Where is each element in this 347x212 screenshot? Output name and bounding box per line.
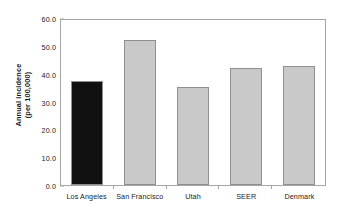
x-axis-tick-mark xyxy=(113,185,114,189)
bar-slot xyxy=(61,20,114,185)
x-axis-tick-label: Los Angeles xyxy=(60,192,113,201)
y-axis-tick-label: 30.0 xyxy=(42,98,56,107)
bar-slot xyxy=(167,20,220,185)
y-axis-title-line-1: Annual incidence xyxy=(14,64,23,127)
bar-slot xyxy=(219,20,272,185)
bar-chart-figure: Annual incidence (per 100,000) 60.050.04… xyxy=(0,0,347,212)
bar xyxy=(230,68,262,185)
bar xyxy=(124,40,156,185)
y-axis-tick-label: 60.0 xyxy=(42,15,56,24)
y-axis-tick-label: 40.0 xyxy=(42,70,56,79)
bar-slot xyxy=(272,20,325,185)
bar xyxy=(177,87,209,185)
y-axis-tick-labels: 60.050.040.030.020.010.00.0 xyxy=(30,19,60,186)
x-axis-tick-labels: Los AngelesSan FranciscoUtahSEERDenmark xyxy=(60,192,326,201)
plot-area xyxy=(60,19,326,186)
y-axis-tick-label: 20.0 xyxy=(42,126,56,135)
x-axis-tick-label: San Francisco xyxy=(113,192,166,201)
bar-series xyxy=(61,20,325,185)
bar xyxy=(283,66,315,185)
bar-slot xyxy=(114,20,167,185)
x-axis-tick-label: Denmark xyxy=(273,192,326,201)
x-axis-tick-mark xyxy=(166,185,167,189)
y-axis-tick-label: 50.0 xyxy=(42,42,56,51)
x-axis-tick-label: Utah xyxy=(166,192,219,201)
x-axis-tick-mark xyxy=(271,185,272,189)
y-axis-tick-label: 0.0 xyxy=(46,182,56,191)
x-axis-tick-mark xyxy=(218,185,219,189)
y-axis-tick-label: 10.0 xyxy=(42,154,56,163)
x-axis-tick-label: SEER xyxy=(220,192,273,201)
bar xyxy=(71,81,103,185)
